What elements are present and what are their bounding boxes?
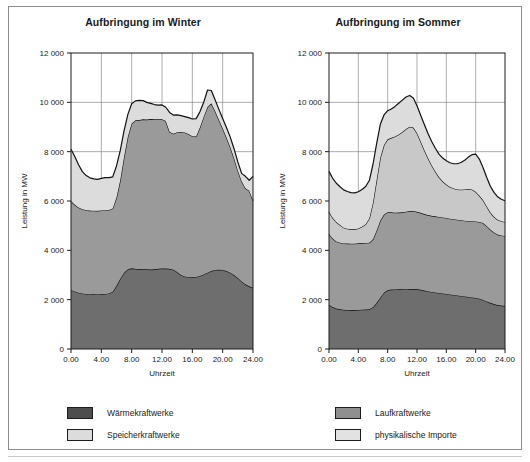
- ytick-label: 0: [318, 345, 323, 354]
- ytick-label: 8 000: [44, 148, 65, 157]
- legend-swatch-waermekraftwerke: [67, 407, 93, 419]
- legend-column-left: Wärmekraftwerke Speicherkraftwerke: [67, 403, 180, 447]
- xtick-label: 4.00: [351, 355, 367, 364]
- xtick-label: 16.00: [436, 355, 457, 364]
- legend-swatch-speicherkraftwerke: [67, 429, 93, 441]
- footer-divider: [8, 456, 522, 457]
- ytick-label: 6 000: [302, 197, 323, 206]
- ytick-label: 0: [60, 345, 65, 354]
- ytick-label: 8 000: [302, 148, 323, 157]
- ytick-label: 12 000: [298, 49, 323, 58]
- plot-svg-summer: 02 0004 0006 0008 00010 00012 0000.004.0…: [273, 41, 523, 391]
- x-axis-label: Uhrzeit: [404, 369, 430, 378]
- ytick-label: 4 000: [302, 246, 323, 255]
- xtick-label: 20.00: [213, 355, 234, 364]
- chart-title-summer: Aufbringung im Sommer: [273, 16, 523, 28]
- figure-root: Aufbringung im Winter 02 0004 0006 0008 …: [0, 0, 530, 462]
- chart-panel-winter: Aufbringung im Winter 02 0004 0006 0008 …: [15, 7, 271, 399]
- plot-svg-winter: 02 0004 0006 0008 00010 00012 0000.004.0…: [15, 41, 271, 391]
- figure-frame: Aufbringung im Winter 02 0004 0006 0008 …: [8, 6, 522, 450]
- xtick-label: 0.00: [321, 355, 337, 364]
- chart-legend: Wärmekraftwerke Speicherkraftwerke Laufk…: [9, 399, 521, 449]
- legend-swatch-laufkraftwerke: [335, 407, 361, 419]
- y-axis-label: Leistung in MW: [20, 173, 29, 229]
- ytick-label: 10 000: [40, 98, 65, 107]
- chart-title-winter: Aufbringung im Winter: [15, 16, 271, 28]
- chart-panel-summer: Aufbringung im Sommer 02 0004 0006 0008 …: [273, 7, 523, 399]
- legend-label-laufkraftwerke: Laufkraftwerke: [375, 408, 431, 418]
- legend-item: Wärmekraftwerke: [67, 403, 180, 423]
- ytick-label: 12 000: [40, 49, 65, 58]
- xtick-label: 24.00: [243, 355, 264, 364]
- legend-item: physikalische Importe: [335, 425, 457, 445]
- x-axis-label: Uhrzeit: [149, 369, 175, 378]
- xtick-label: 0.00: [63, 355, 79, 364]
- y-axis-label: Leistung in MW: [278, 173, 287, 229]
- ytick-label: 6 000: [44, 197, 65, 206]
- ytick-label: 2 000: [302, 296, 323, 305]
- legend-label-waermekraftwerke: Wärmekraftwerke: [107, 408, 174, 418]
- xtick-label: 8.00: [124, 355, 140, 364]
- xtick-label: 20.00: [466, 355, 487, 364]
- ytick-label: 4 000: [44, 246, 65, 255]
- plot-area-winter: 02 0004 0006 0008 00010 00012 0000.004.0…: [15, 41, 271, 391]
- xtick-label: 16.00: [182, 355, 203, 364]
- plot-area-summer: 02 0004 0006 0008 00010 00012 0000.004.0…: [273, 41, 523, 391]
- legend-swatch-physikalische-importe: [335, 429, 361, 441]
- xtick-label: 12.00: [152, 355, 173, 364]
- xtick-label: 8.00: [380, 355, 396, 364]
- ytick-label: 10 000: [298, 98, 323, 107]
- xtick-label: 4.00: [94, 355, 110, 364]
- legend-label-speicherkraftwerke: Speicherkraftwerke: [107, 430, 180, 440]
- xtick-label: 24.00: [495, 355, 516, 364]
- legend-item: Speicherkraftwerke: [67, 425, 180, 445]
- xtick-label: 12.00: [407, 355, 428, 364]
- ytick-label: 2 000: [44, 296, 65, 305]
- legend-label-physikalische-importe: physikalische Importe: [375, 430, 457, 440]
- legend-item: Laufkraftwerke: [335, 403, 457, 423]
- legend-column-right: Laufkraftwerke physikalische Importe: [335, 403, 457, 447]
